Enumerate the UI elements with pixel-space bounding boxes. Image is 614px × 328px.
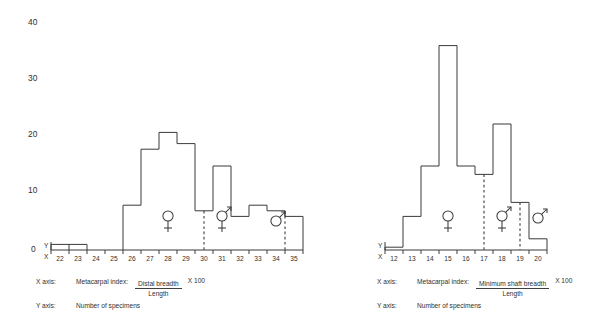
left-caption-x-post: X 100: [186, 277, 205, 285]
x-tick-label-23: 23: [74, 255, 82, 262]
histogram-bars: [385, 46, 547, 250]
x-axis-ticks: [51, 250, 303, 254]
left-caption-y-label: Number of specimens: [76, 302, 140, 310]
right-caption-y-label: Number of specimens: [417, 302, 481, 310]
right-histogram-svg: Y X 12 13 14: [305, 0, 614, 270]
left-caption-x-key: X axis:: [36, 278, 76, 286]
x-tick-label-12: 12: [390, 255, 398, 262]
left-caption-numerator: Distal breadth: [135, 280, 182, 289]
x-tick-label-35: 35: [290, 255, 298, 262]
right-caption-x-post: X 100: [553, 277, 572, 285]
right-caption: X axis: Metacarpal index: Minimum shaft …: [377, 278, 572, 317]
x-tick-label-25: 25: [110, 255, 118, 262]
male-female-symbol: [217, 207, 231, 232]
y-tick-label-30: 30: [28, 73, 38, 83]
x-axis-letter: X: [378, 253, 383, 260]
x-tick-label-32: 32: [236, 255, 244, 262]
x-tick-label-26: 26: [128, 255, 136, 262]
right-caption-x-pre: Metacarpal index:: [417, 278, 472, 286]
x-tick-label-16: 16: [462, 255, 470, 262]
left-caption-y-key: Y axis:: [36, 302, 76, 310]
right-caption-x-key: X axis:: [377, 278, 417, 286]
x-tick-label-34: 34: [272, 255, 280, 262]
x-tick-label-17: 17: [480, 255, 488, 262]
left-caption-denominator: Length: [135, 289, 182, 298]
y-tick-label-10: 10: [28, 185, 38, 195]
y-axis-letter: Y: [44, 242, 49, 249]
figure-two-histograms: 40 30 20 10 0 Y X: [0, 0, 614, 328]
x-tick-label-13: 13: [408, 255, 416, 262]
male-symbol: [271, 212, 285, 226]
x-tick-label-24: 24: [92, 255, 100, 262]
x-tick-label-22: 22: [56, 255, 64, 262]
female-symbol: [443, 211, 453, 232]
histogram-panel-distal-breadth: 40 30 20 10 0 Y X: [0, 0, 330, 328]
x-axis-ticks: [385, 250, 547, 254]
left-caption-fraction: Distal breadth Length: [135, 280, 182, 298]
x-tick-label-14: 14: [426, 255, 434, 262]
y-tick-label-40: 40: [28, 17, 38, 27]
left-caption-x-pre: Metacarpal index:: [76, 278, 131, 286]
x-tick-label-28: 28: [164, 255, 172, 262]
left-histogram-svg: 40 30 20 10 0 Y X: [0, 0, 330, 270]
right-caption-x-row: X axis: Metacarpal index: Minimum shaft …: [377, 278, 572, 296]
male-female-symbol: [497, 207, 511, 232]
right-caption-numerator: Minimum shaft breadth: [476, 280, 549, 289]
right-caption-y-row: Y axis: Number of specimens: [377, 302, 572, 310]
x-tick-label-20: 20: [534, 255, 542, 262]
left-caption: X axis: Metacarpal index: Distal breadth…: [36, 278, 205, 317]
x-axis-letter: X: [44, 253, 49, 260]
x-tick-label-30: 30: [200, 255, 208, 262]
female-symbol: [163, 211, 173, 232]
x-tick-label-29: 29: [182, 255, 190, 262]
x-tick-label-15: 15: [444, 255, 452, 262]
left-caption-x-row: X axis: Metacarpal index: Distal breadth…: [36, 278, 205, 296]
x-tick-label-19: 19: [516, 255, 524, 262]
histogram-panel-minimum-shaft-breadth: Y X 12 13 14: [305, 0, 614, 328]
right-caption-y-key: Y axis:: [377, 302, 417, 310]
male-symbol: [533, 209, 547, 223]
right-caption-denominator: Length: [476, 289, 549, 298]
left-caption-y-row: Y axis: Number of specimens: [36, 302, 205, 310]
x-tick-label-18: 18: [498, 255, 506, 262]
x-tick-label-33: 33: [254, 255, 262, 262]
y-axis-letter: Y: [378, 242, 383, 249]
y-tick-label-0: 0: [31, 244, 36, 254]
right-caption-fraction: Minimum shaft breadth Length: [476, 280, 549, 298]
y-tick-label-20: 20: [28, 129, 38, 139]
x-axis-tick-labels: 12 13 14 15 16 17 18 19 20: [390, 255, 542, 262]
x-tick-label-31: 31: [218, 255, 226, 262]
histogram-bars: [51, 132, 303, 250]
x-tick-label-27: 27: [146, 255, 154, 262]
x-axis-tick-labels: 22 23 24 25 26 27 28 29 30 31 32 33 34 3…: [56, 255, 298, 262]
